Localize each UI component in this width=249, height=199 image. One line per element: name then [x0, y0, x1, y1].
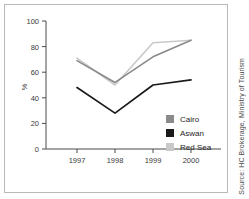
y-tick-label-20: 20 — [31, 119, 39, 128]
series-line-aswan — [77, 80, 191, 113]
legend-label-cairo: Cairo — [180, 115, 200, 124]
x-tick-label-1998: 1998 — [107, 156, 124, 165]
y-tick-label-40: 40 — [31, 94, 39, 103]
legend-label-aswan: Aswan — [180, 129, 204, 138]
data-series-group — [77, 40, 191, 113]
x-tick-label-1997: 1997 — [69, 156, 86, 165]
legend-swatch-cairo — [166, 115, 174, 123]
y-axis: 100 80 60 40 20 0 % — [20, 17, 46, 154]
chart-legend: Cairo Aswan Red Sea — [166, 115, 212, 152]
chart-screenshot: 100 80 60 40 20 0 % 1997 1998 1999 — [0, 0, 249, 199]
plot-area: 100 80 60 40 20 0 % 1997 1998 1999 — [5, 5, 229, 194]
source-text: Source: HC Brokerage, Ministry of Touris… — [238, 58, 245, 195]
x-tick-label-1999: 1999 — [145, 156, 162, 165]
line-chart: 100 80 60 40 20 0 % 1997 1998 1999 — [5, 5, 229, 194]
y-tick-label-0: 0 — [35, 145, 39, 154]
legend-swatch-aswan — [166, 129, 174, 137]
y-axis-title: % — [20, 83, 29, 90]
source-attribution: Source: HC Brokerage, Ministry of Touris… — [234, 5, 248, 195]
legend-swatch-red-sea — [166, 143, 174, 151]
y-tick-label-80: 80 — [31, 43, 39, 52]
y-tick-label-100: 100 — [26, 17, 39, 26]
y-tick-label-60: 60 — [31, 68, 39, 77]
x-tick-label-2000: 2000 — [183, 156, 200, 165]
series-line-cairo — [77, 40, 191, 82]
legend-label-red-sea: Red Sea — [180, 143, 212, 152]
chart-frame: 100 80 60 40 20 0 % 1997 1998 1999 — [4, 4, 228, 193]
